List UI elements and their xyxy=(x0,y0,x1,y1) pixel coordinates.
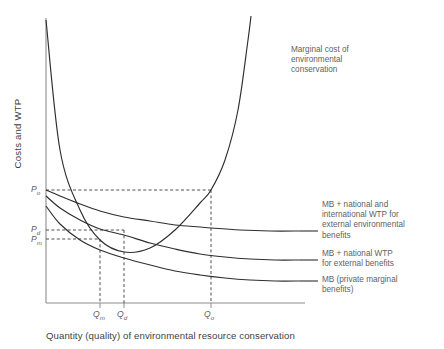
x-tick-label-qd: Qd xyxy=(117,309,127,321)
x-axis-title: Quantity (quality) of environmental reso… xyxy=(46,330,295,341)
y-axis-title: Costs and WTP xyxy=(12,79,23,189)
annotation-mb-private: MB (private marginal benefits) xyxy=(322,275,444,295)
annotation-mb-national: MB + national WTP for external benefits xyxy=(322,249,444,269)
curve-marginal-cost xyxy=(46,16,251,252)
annotation-marginal-cost: Marginal cost of environmental conservat… xyxy=(291,45,441,76)
x-tick-label-qo: Qo xyxy=(204,309,214,321)
curve-mb-international xyxy=(46,190,300,231)
y-tick-label-pm: Pm xyxy=(31,234,42,246)
annotation-mb-international: MB + national and international WTP for … xyxy=(322,200,444,241)
y-tick-label-po: Po xyxy=(31,184,40,196)
x-tick-label-qm: Qm xyxy=(93,309,105,321)
economics-diagram: Costs and WTP Quantity (quality) of envi… xyxy=(0,0,444,349)
